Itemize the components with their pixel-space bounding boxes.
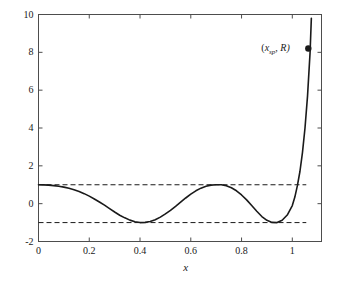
x-tick-label: 1: [272, 246, 312, 256]
annotation-suffix: , R): [275, 42, 289, 53]
markers-layer: [305, 45, 311, 51]
x-axis-title: x: [176, 262, 196, 273]
reference-lines-layer: [39, 185, 307, 223]
setpoint-annotation-label: (xsp, R): [261, 43, 289, 56]
y-tick-label: 0: [29, 199, 34, 209]
x-tick-label: 0.4: [120, 246, 160, 256]
x-tick-label: 0: [19, 246, 59, 256]
y-tick-label: 8: [29, 47, 34, 57]
x-tick-label: 0.6: [171, 246, 211, 256]
y-tick-label: 10: [24, 10, 34, 20]
y-tick-label: 2: [29, 161, 34, 171]
y-tick-label: 4: [29, 123, 34, 133]
y-tick-label: 6: [29, 85, 34, 95]
x-tick-label: 0.2: [69, 246, 109, 256]
x-tick-label: 0.8: [222, 246, 262, 256]
figure-container: -20246810 00.20.40.60.81 x (xsp, R): [0, 0, 340, 288]
